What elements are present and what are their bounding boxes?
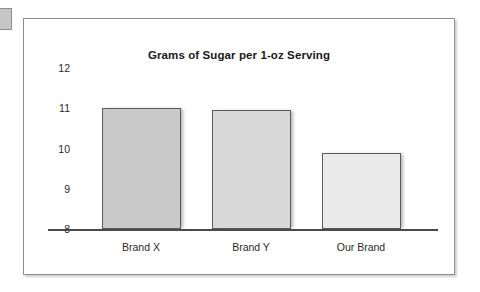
y-axis-tick-9: 9 [30,183,70,195]
y-axis-tick-labels: 12111098 [30,19,70,276]
bar-our-brand [322,153,401,229]
y-axis-tick-11: 11 [30,102,70,114]
y-axis-tick-10: 10 [30,143,70,155]
y-axis-tick-12: 12 [30,62,70,74]
bar-brand-x [102,108,181,229]
category-label-brand-y: Brand Y [196,241,306,253]
category-label-brand-x: Brand X [86,241,196,253]
x-axis-line [48,229,438,231]
bar-brand-y [212,110,291,229]
category-label-our-brand: Our Brand [306,241,416,253]
corner-tab [0,8,12,30]
plot-area: 12111098 Brand XBrand YOur Brand [24,19,456,276]
chart-frame: Grams of Sugar per 1-oz Serving 12111098… [23,18,455,275]
